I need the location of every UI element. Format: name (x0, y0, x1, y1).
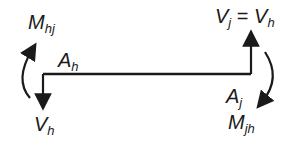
moment-left-label: Mhj (28, 12, 55, 35)
moment-arrow-right (262, 52, 273, 102)
shear-right-label: Vj = Vh (215, 6, 275, 29)
moment-arrow-left (22, 50, 32, 98)
shear-left-label: Vh (34, 114, 55, 137)
node-left-label: Ah (58, 50, 79, 73)
node-right-label: Aj (226, 86, 242, 109)
moment-right-label: Mjh (228, 112, 255, 135)
